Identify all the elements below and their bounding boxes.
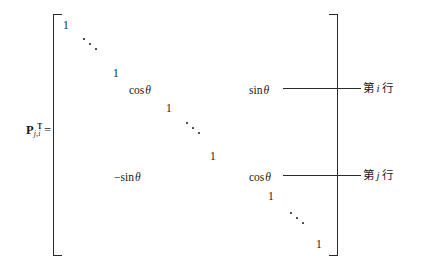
leader-line-row-i	[283, 88, 361, 89]
matrix-superscript: T	[37, 122, 42, 131]
matrix-entry-cos-theta-b: cosθ	[249, 172, 271, 184]
matrix-entry-1d: 1	[210, 151, 216, 163]
theta-symbol: θ	[145, 84, 151, 96]
matrix-bracket-left	[53, 14, 62, 256]
entry-function-name: sin	[249, 84, 262, 96]
matrix-figure: Pj,iT= 1 1 cosθ sinθ 1 1 −sinθ cosθ 1 1 …	[0, 0, 421, 273]
theta-symbol: θ	[263, 84, 269, 96]
diagonal-ellipsis-icon	[82, 36, 102, 52]
matrix-entry-1e: 1	[268, 191, 274, 203]
annotation-row-i-index: i	[377, 82, 380, 94]
diagonal-ellipsis-icon	[185, 120, 205, 136]
equals-sign: =	[44, 123, 51, 137]
matrix-symbol: P	[26, 123, 34, 137]
matrix-entry-1: 1	[63, 20, 69, 32]
entry-function-name: −sin	[114, 171, 134, 183]
matrix-entry-1b: 1	[113, 68, 119, 80]
annotation-row-i-prefix: 第	[363, 81, 374, 95]
matrix-label: Pj,iT=	[26, 123, 51, 138]
matrix-entry-neg-sin-theta: −sinθ	[114, 172, 141, 184]
matrix-entry-1c: 1	[166, 103, 172, 115]
diagonal-ellipsis-icon	[289, 210, 309, 226]
entry-function-name: cos	[249, 171, 264, 183]
annotation-row-i: 第i行	[363, 83, 393, 95]
annotation-row-j-prefix: 第	[363, 168, 374, 182]
matrix-entry-sin-theta: sinθ	[249, 85, 269, 97]
theta-symbol: θ	[265, 171, 271, 183]
matrix-entry-cos-theta: cosθ	[129, 85, 151, 97]
matrix-entry-1f: 1	[316, 239, 322, 251]
annotation-row-j-suffix: 行	[382, 168, 393, 182]
theta-symbol: θ	[135, 171, 141, 183]
matrix-bracket-right	[329, 14, 338, 256]
leader-line-row-j	[283, 175, 361, 176]
entry-function-name: cos	[129, 84, 144, 96]
annotation-row-j: 第j行	[363, 170, 393, 182]
annotation-row-j-index: j	[377, 169, 380, 181]
annotation-row-i-suffix: 行	[382, 81, 393, 95]
